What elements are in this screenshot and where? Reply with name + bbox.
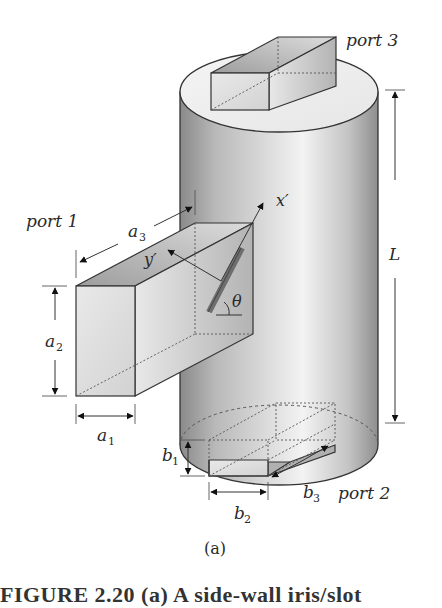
- svg-text:a: a: [45, 331, 55, 351]
- a2-label: a 2: [45, 331, 63, 354]
- svg-text:1: 1: [108, 435, 115, 448]
- L-label: L: [388, 244, 400, 264]
- subfigure-label: (a): [204, 539, 226, 558]
- figure-caption: FIGURE 2.20 (a) A side-wall iris/slot: [0, 582, 442, 608]
- y-prime-label: y′: [143, 250, 157, 269]
- svg-text:3: 3: [313, 492, 320, 505]
- port1-label: port 1: [26, 211, 78, 231]
- svg-text:3: 3: [139, 231, 146, 244]
- svg-text:2: 2: [56, 341, 63, 354]
- svg-text:2: 2: [244, 513, 251, 526]
- a1-label: a 1: [97, 425, 115, 448]
- x-prime-label: x′: [276, 191, 289, 210]
- svg-text:1: 1: [172, 455, 179, 468]
- svg-text:a: a: [128, 221, 138, 241]
- b1-label: b 1: [162, 445, 179, 468]
- port2-label: port 2: [338, 483, 390, 503]
- a3-label: a 3: [128, 221, 146, 244]
- theta-label: θ: [232, 292, 242, 311]
- port3-label: port 3: [346, 30, 398, 50]
- svg-text:a: a: [97, 425, 107, 445]
- dimension-a1: [76, 404, 135, 424]
- b3-label: b 3: [303, 482, 320, 505]
- b2-label: b 2: [234, 503, 251, 526]
